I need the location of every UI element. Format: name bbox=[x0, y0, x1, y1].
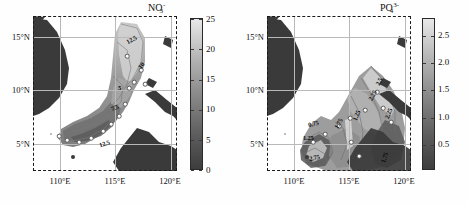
xtick-120e: 120°E bbox=[393, 176, 414, 186]
ytick-15n: 15°N bbox=[0, 32, 30, 42]
colorbar-tick-no3: 20 bbox=[206, 44, 215, 54]
colorbar-tick-po4: 1.0 bbox=[438, 112, 449, 122]
colorbar-mark bbox=[423, 36, 426, 37]
map-no3: 12.5 10 5 7.5 12.5 bbox=[33, 16, 177, 171]
colorbar-tick-no3: 25 bbox=[206, 14, 215, 24]
station-dot bbox=[65, 138, 70, 143]
landmass-vietnam bbox=[33, 18, 69, 116]
contour-label: 1.25 bbox=[303, 134, 314, 141]
gridline-120e bbox=[405, 16, 406, 171]
colorbar-po4 bbox=[422, 18, 435, 170]
islet-1 bbox=[71, 155, 75, 159]
panel-title-po4-sup: 3- bbox=[393, 1, 399, 9]
station-dot bbox=[381, 106, 386, 111]
panel-no3: NO3- bbox=[0, 0, 234, 204]
colorbar-mark bbox=[431, 118, 434, 119]
colorbar-mark bbox=[431, 145, 434, 146]
station-dot bbox=[127, 86, 132, 91]
station-dot bbox=[389, 120, 394, 125]
landmass-borneo bbox=[113, 128, 177, 171]
gridline-115e bbox=[349, 16, 350, 171]
panel-po4: PO43- bbox=[234, 0, 468, 204]
colorbar-tick-no3: 5 bbox=[206, 135, 211, 145]
colorbar-mark bbox=[191, 80, 194, 81]
map-content-po4 bbox=[267, 16, 411, 171]
station-dot bbox=[132, 80, 137, 85]
nutrient-figure: NO3- bbox=[0, 0, 468, 204]
station-dot bbox=[357, 154, 362, 159]
gridline-15n bbox=[267, 37, 411, 38]
colorbar-mark bbox=[199, 19, 202, 20]
ytick-10n: 10°N bbox=[234, 85, 264, 95]
station-dot bbox=[143, 82, 148, 87]
gridline-5n bbox=[267, 144, 411, 145]
colorbar-tick-po4: 2.5 bbox=[438, 30, 449, 40]
colorbar-mark bbox=[199, 49, 202, 50]
colorbar-mark bbox=[199, 140, 202, 141]
colorbar-tick-no3: 15 bbox=[206, 74, 215, 84]
colorbar-mark bbox=[191, 49, 194, 50]
colorbar-mark bbox=[199, 80, 202, 81]
colorbar-mark bbox=[191, 110, 194, 111]
colorbar-mark bbox=[191, 140, 194, 141]
colorbar-mark bbox=[431, 90, 434, 91]
xtick-110e: 110°E bbox=[49, 176, 70, 186]
colorbar-mark bbox=[199, 110, 202, 111]
ytick-5n: 5°N bbox=[234, 139, 264, 149]
station-dot bbox=[125, 54, 130, 59]
colorbar-tick-no3: 10 bbox=[206, 104, 215, 114]
gridline-120e bbox=[171, 16, 172, 171]
colorbar-mark bbox=[431, 36, 434, 37]
station-dot bbox=[109, 122, 114, 127]
gridline-10n bbox=[33, 90, 177, 91]
ytick-10n: 10°N bbox=[0, 85, 30, 95]
colorbar-tick-po4: 2.0 bbox=[438, 57, 449, 67]
station-dot bbox=[117, 114, 122, 119]
colorbar-tick-po4: 0.5 bbox=[438, 139, 449, 149]
gridline-10n bbox=[267, 90, 411, 91]
colorbar-mark bbox=[423, 145, 426, 146]
gridline-110e bbox=[60, 16, 61, 171]
panel-title-no3: NO3- bbox=[148, 3, 165, 13]
colorbar-mark bbox=[423, 118, 426, 119]
map-po4: 2.5 2.25 2.25 1.25 1.75 0.75 1.25 2.75 1… bbox=[267, 16, 411, 171]
landmass-palawan bbox=[145, 90, 177, 120]
colorbar-mark bbox=[191, 170, 194, 171]
colorbar-mark bbox=[191, 19, 194, 20]
station-dot bbox=[123, 102, 128, 107]
colorbar-mark bbox=[423, 90, 426, 91]
map-content-no3 bbox=[33, 16, 177, 171]
ytick-15n: 15°N bbox=[234, 32, 264, 42]
colorbar-mark bbox=[431, 63, 434, 64]
station-dot bbox=[363, 108, 368, 113]
station-dot bbox=[89, 136, 94, 141]
colorbar-tick-no3: 0 bbox=[206, 165, 211, 175]
station-dot bbox=[57, 134, 62, 139]
gridline-15n bbox=[33, 37, 177, 38]
xtick-110e: 110°E bbox=[283, 176, 304, 186]
contour-label: 5 bbox=[118, 84, 121, 91]
colorbar-mark bbox=[199, 170, 202, 171]
station-dot bbox=[349, 140, 354, 145]
xtick-115e: 115°E bbox=[104, 176, 125, 186]
xtick-115e: 115°E bbox=[338, 176, 359, 186]
ytick-5n: 5°N bbox=[0, 139, 30, 149]
panel-title-po4: PO43- bbox=[380, 3, 399, 13]
islet-2 bbox=[284, 133, 286, 135]
colorbar-no3 bbox=[190, 18, 203, 170]
xtick-120e: 120°E bbox=[159, 176, 180, 186]
station-dot bbox=[101, 129, 106, 134]
gridline-115e bbox=[115, 16, 116, 171]
colorbar-mark bbox=[423, 63, 426, 64]
landmass-vietnam bbox=[267, 18, 303, 116]
islet-3 bbox=[152, 157, 154, 159]
gridline-110e bbox=[294, 16, 295, 171]
station-dot bbox=[323, 132, 328, 137]
islet-2 bbox=[50, 133, 52, 135]
station-dot bbox=[77, 140, 82, 145]
panel-title-no3-sup: - bbox=[163, 1, 165, 9]
colorbar-tick-po4: 1.5 bbox=[438, 84, 449, 94]
